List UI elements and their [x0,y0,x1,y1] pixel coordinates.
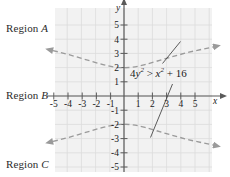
y-tick-label: -2 [111,120,119,130]
x-tick-label: -3 [78,99,86,109]
region-c-letter: C [41,158,48,170]
y-tick-label: -4 [111,148,119,158]
y-tick-label: 4 [114,35,119,45]
x-tick-label: 5 [193,99,198,109]
x-tick-label: 4 [178,99,183,109]
x-tick-label: 3 [164,99,169,109]
y-tick-label: -3 [111,134,119,144]
x-axis-label: x [212,96,218,106]
ineq-relation: > [144,67,156,79]
region-b-label: Region B [6,89,48,101]
x-tick-label: -5 [50,99,58,109]
x-tick-label: -2 [92,99,100,109]
region-a-label: Region A [6,22,48,34]
region-a-prefix: Region [6,22,41,34]
y-tick-label: 2 [114,63,119,73]
y-tick-label: -5 [111,162,119,172]
inequality-annotation: 4y2 > x2 + 16 [130,66,187,79]
ineq-tail: + 16 [164,67,187,79]
region-b-letter: B [41,89,48,101]
x-tick-label: 1 [136,99,141,109]
y-tick-label: 3 [114,49,119,59]
y-tick-label: 1 [114,77,119,87]
x-tick-label: 2 [150,99,155,109]
region-b-prefix: Region [6,89,41,101]
y-tick-label: 5 [114,20,119,30]
y-axis-label: y [115,3,121,13]
hyperbola-region-figure: -5 -4 -3 -2 -1 1 2 3 4 5 5 4 3 2 1 -1 -2… [0,0,230,177]
region-c-prefix: Region [6,158,41,170]
region-c-label: Region C [6,158,49,170]
grid-panel [55,8,212,172]
x-tick-label: -4 [64,99,72,109]
region-a-letter: A [41,22,48,34]
y-tick-label: -1 [111,106,119,116]
